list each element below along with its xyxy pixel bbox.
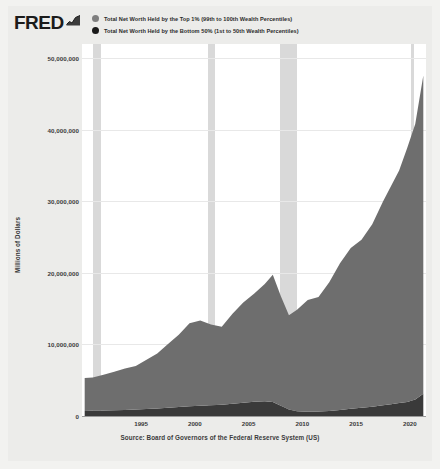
y-tick-label: 50,000,000 <box>48 55 79 62</box>
x-axis-line <box>82 416 426 417</box>
fred-wordmark: FRED <box>14 13 64 32</box>
chart-legend: Total Net Worth Held by the Top 1% (99th… <box>92 13 422 37</box>
fred-chart-figure: FRED Total Net Worth Held by the Top 1% … <box>8 6 432 461</box>
screenshot-root: FRED Total Net Worth Held by the Top 1% … <box>0 0 440 469</box>
area-series-group <box>82 44 426 416</box>
legend-item-label: Total Net Worth Held by the Bottom 50% (… <box>104 28 299 34</box>
y-tick-label: 20,000,000 <box>48 269 79 276</box>
x-tick-label: 1995 <box>134 420 148 427</box>
legend-item-bottom50[interactable]: Total Net Worth Held by the Bottom 50% (… <box>92 25 422 36</box>
chart-header: FRED Total Net Worth Held by the Top 1% … <box>8 6 432 40</box>
x-tick-label: 2020 <box>403 420 417 427</box>
x-tick-label: 2005 <box>242 420 256 427</box>
area-series <box>85 75 424 411</box>
source-caption: Source: Board of Governors of the Federa… <box>8 434 432 441</box>
y-axis-ticks: 010,000,00020,000,00030,000,00040,000,00… <box>26 40 82 429</box>
x-tick-label: 2010 <box>295 420 309 427</box>
plot-region: Millions of Dollars 010,000,00020,000,00… <box>8 40 432 429</box>
x-tick-label: 2015 <box>349 420 363 427</box>
y-axis-title: Millions of Dollars <box>14 190 26 300</box>
y-tick-label: 0 <box>76 413 80 420</box>
y-tick-label: 30,000,000 <box>48 198 79 205</box>
circle-marker-icon <box>92 15 99 22</box>
sparkline-icon <box>66 12 81 30</box>
legend-item-label: Total Net Worth Held by the Top 1% (99th… <box>104 16 292 22</box>
x-axis-ticks: 199520002005201020152020 <box>82 418 426 432</box>
plot-area[interactable] <box>82 44 426 416</box>
legend-item-top1[interactable]: Total Net Worth Held by the Top 1% (99th… <box>92 13 422 24</box>
y-tick-label: 40,000,000 <box>48 126 79 133</box>
fred-logo[interactable]: FRED <box>14 11 86 33</box>
y-tick-label: 10,000,000 <box>48 341 79 348</box>
x-tick-label: 2000 <box>188 420 202 427</box>
circle-marker-icon <box>92 27 99 34</box>
